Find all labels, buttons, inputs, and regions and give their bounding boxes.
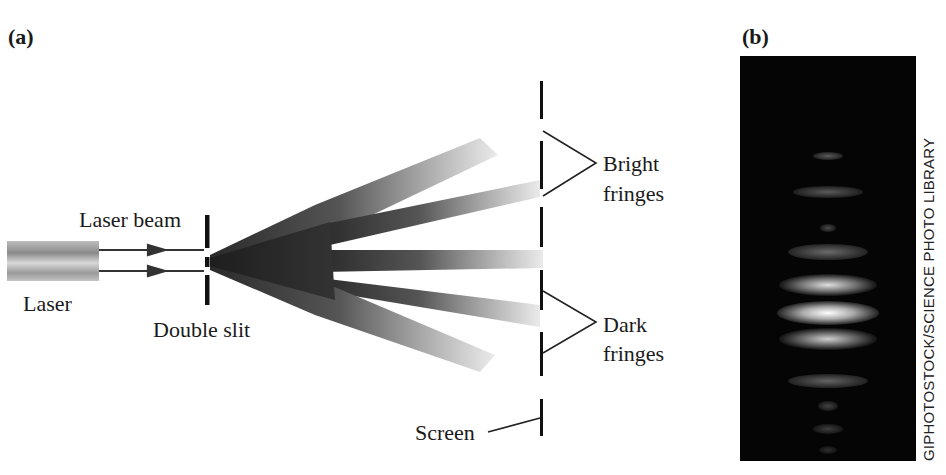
fringe-band [788,244,868,260]
fringe-band [788,374,868,388]
laser-beam-arrows [99,245,204,276]
fringe-band [793,186,863,198]
fringe-band [819,446,837,454]
fringe-band [813,152,843,160]
dark-fringes-label-line2: fringes [603,342,664,366]
fringe-band-central [777,301,879,325]
fringe-band [779,274,877,296]
laser-label: Laser [23,292,72,316]
bright-fringes-label-line2: fringes [603,182,664,206]
dark-fringes-bracket [543,291,596,353]
photo-credit: GIPHOTOSTOCK/SCIENCE PHOTO LIBRARY [920,138,937,461]
interference-pattern-photo [740,56,916,461]
laser-body [7,241,99,281]
bright-fringes-bracket [543,131,596,196]
fringe-band [820,224,836,232]
bright-fringes-label-line1: Bright [603,152,659,176]
fringe-band [813,424,843,434]
laser-beam-label: Laser beam [79,208,181,232]
double-slit-barrier [205,215,210,305]
screen-pointer-line [488,418,540,432]
fringe-band [779,328,877,350]
interference-beams [210,138,543,372]
fringe-band [818,401,838,411]
double-slit-label: Double slit [153,318,250,342]
dark-fringes-label-line1: Dark [603,313,647,337]
screen-label: Screen [415,421,475,445]
